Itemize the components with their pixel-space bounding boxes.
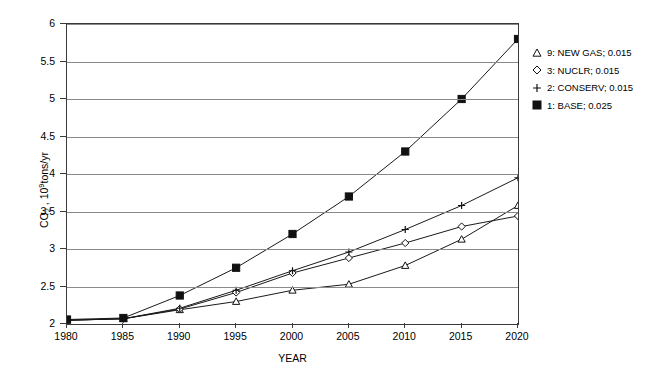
x-axis-tick-mark: [235, 323, 236, 328]
y-axis-tick-label: 2: [49, 317, 55, 329]
series-line: [67, 206, 518, 321]
legend-item[interactable]: 9: NEW GAS; 0.015: [527, 44, 657, 62]
x-axis-tick-label: 1995: [223, 330, 246, 342]
y-axis-tick-label: 5.5: [40, 55, 55, 67]
gridline: [67, 249, 518, 250]
legend-marker-slot: [527, 82, 547, 94]
y-axis-tick-mark: [60, 98, 66, 99]
x-axis-tick-mark: [66, 323, 67, 328]
data-point-open-diamond: [402, 239, 409, 246]
data-point-filled-square: [120, 314, 127, 321]
x-axis-tick-mark: [404, 323, 405, 328]
x-axis-tick-mark: [461, 323, 462, 328]
x-axis-tick-label: 2015: [449, 330, 472, 342]
legend-item[interactable]: 2: CONSERV; 0.015: [527, 79, 657, 97]
x-axis-title: YEAR: [66, 352, 519, 364]
y-axis-tick-mark: [60, 23, 66, 24]
y-axis-tick-label: 3: [49, 242, 55, 254]
x-axis-tick-label: 2020: [505, 330, 528, 342]
data-point-open-triangle: [402, 262, 409, 268]
legend-item-label: 1: BASE; 0.025: [547, 100, 612, 111]
data-point-filled-square: [176, 292, 183, 299]
gridline: [67, 174, 518, 175]
y-axis-tick-label: 4: [49, 167, 55, 179]
y-axis-tick-mark: [60, 248, 66, 249]
x-axis-tick-mark: [179, 323, 180, 328]
legend-marker-slot: [527, 47, 547, 59]
x-axis-tick-label: 2000: [280, 330, 303, 342]
y-axis-tick-mark: [60, 61, 66, 62]
data-point-open-diamond: [514, 212, 518, 219]
legend-marker-open-triangle: [531, 47, 543, 59]
data-point-plus: [533, 84, 541, 92]
y-axis-tick-label: 3.5: [40, 205, 55, 217]
x-axis-tick-mark: [292, 323, 293, 328]
data-point-open-triangle: [458, 236, 465, 242]
data-point-filled-square: [233, 264, 240, 271]
data-point-open-diamond: [458, 223, 465, 230]
data-point-filled-square: [514, 35, 518, 42]
data-point-filled-square: [533, 101, 541, 109]
x-axis-tick-label: 2010: [393, 330, 416, 342]
data-point-filled-square: [402, 148, 409, 155]
gridline: [67, 212, 518, 213]
data-point-open-triangle: [514, 202, 518, 208]
legend-marker-plus: [531, 82, 543, 94]
legend-marker-slot: [527, 64, 547, 76]
series-line: [67, 39, 518, 320]
y-axis-tick-label: 2.5: [40, 280, 55, 292]
gridline: [67, 287, 518, 288]
y-axis-tick-label: 4.5: [40, 130, 55, 142]
data-point-filled-square: [67, 316, 71, 323]
y-axis-tick-label: 5: [49, 92, 55, 104]
y-axis-tick-mark: [60, 173, 66, 174]
legend-item[interactable]: 3: NUCLR; 0.015: [527, 62, 657, 80]
legend-item-label: 9: NEW GAS; 0.015: [547, 47, 631, 58]
gridline: [67, 62, 518, 63]
chart-legend: 9: NEW GAS; 0.0153: NUCLR; 0.0152: CONSE…: [527, 44, 657, 114]
y-axis-tick-label: 6: [49, 17, 55, 29]
gridline: [67, 137, 518, 138]
data-point-open-triangle: [533, 49, 541, 56]
x-axis-tick-label: 1980: [54, 330, 77, 342]
y-axis-tick-mark: [60, 211, 66, 212]
legend-marker-filled-square: [531, 99, 543, 111]
y-axis-tick-mark: [60, 286, 66, 287]
data-point-open-diamond: [533, 66, 541, 74]
data-point-plus: [458, 202, 465, 209]
x-axis-tick-label: 2005: [336, 330, 359, 342]
legend-marker-slot: [527, 99, 547, 111]
x-axis-tick-label: 1990: [167, 330, 190, 342]
plot-area: [66, 23, 519, 325]
gridline: [67, 24, 518, 25]
x-axis-tick-mark: [517, 323, 518, 328]
gridline: [67, 99, 518, 100]
legend-item[interactable]: 1: BASE; 0.025: [527, 97, 657, 115]
x-axis-tick-mark: [348, 323, 349, 328]
legend-item-label: 2: CONSERV; 0.015: [547, 82, 633, 93]
legend-item-label: 3: NUCLR; 0.015: [547, 65, 619, 76]
data-point-filled-square: [289, 230, 296, 237]
y-axis-tick-mark: [60, 136, 66, 137]
chart-figure: CO2 , 109tons/yr 22.533.544.555.56 19801…: [0, 0, 659, 379]
legend-marker-open-diamond: [531, 64, 543, 76]
x-axis-tick-mark: [122, 323, 123, 328]
x-axis-tick-label: 1985: [111, 330, 134, 342]
y-axis-title-superscript: 9: [37, 183, 46, 187]
data-point-plus: [514, 174, 518, 181]
data-point-filled-square: [345, 193, 352, 200]
data-point-plus: [402, 226, 409, 233]
